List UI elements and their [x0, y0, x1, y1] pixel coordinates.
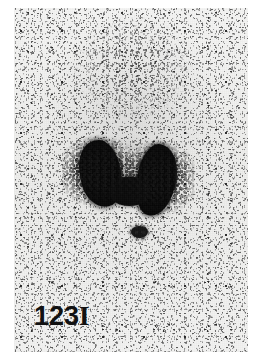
thyroid-isthmus	[109, 177, 150, 206]
isotope-label: 123I	[34, 303, 90, 330]
thyroid-scintigraphy-figure: 123I	[0, 0, 261, 361]
thyroid-gland	[80, 135, 178, 221]
pyramidal-lobe-core	[131, 226, 148, 238]
perithyroidal-halo	[70, 122, 187, 225]
pyramidal-lobe-scatter	[122, 218, 157, 246]
gland-edge-scatter	[62, 122, 196, 236]
pyramidal-lobe-focus	[122, 218, 157, 246]
upper-neck-count-cloud	[65, 15, 201, 132]
isotope-mass-number: 123	[34, 301, 79, 331]
right-thyroid-lobe	[75, 138, 126, 211]
isotope-element-symbol: I	[79, 301, 90, 331]
left-thyroid-lobe	[132, 141, 181, 218]
